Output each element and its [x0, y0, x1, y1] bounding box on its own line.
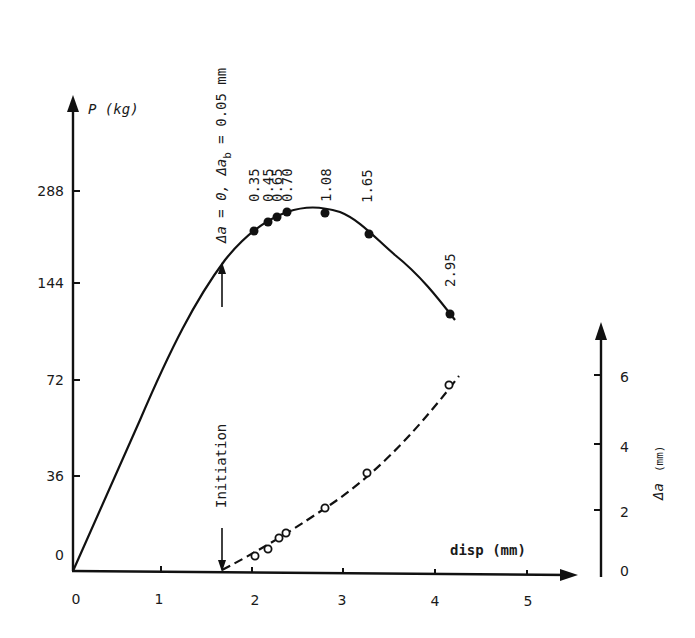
y-axis-label: P (kg) — [88, 101, 139, 117]
svg-text:1.65: 1.65 — [359, 169, 375, 203]
top-note: Δa = 0, Δab = 0.05 mm — [213, 68, 234, 244]
y2-tick-4: 4 — [620, 439, 629, 455]
crack-points — [251, 381, 452, 559]
chart: 288 144 72 36 0 P (kg) 0 1 2 3 4 5 disp … — [0, 0, 695, 638]
left-y-axis: 288 144 72 36 0 P (kg) — [37, 95, 138, 571]
load-curve — [73, 208, 455, 572]
y2-axis-label: Δa (mm) — [650, 446, 666, 502]
svg-text:Δa = 0, Δab = 0.05 mm: Δa = 0, Δab = 0.05 mm — [213, 68, 234, 244]
crack-extension-curve — [222, 376, 459, 570]
initiation-label: Initiation — [213, 424, 229, 508]
svg-text:1.08: 1.08 — [318, 168, 334, 202]
y2-tick-6: 6 — [620, 369, 629, 385]
x-axis-label: disp (mm) — [450, 542, 526, 558]
y-tick-72: 72 — [46, 372, 64, 388]
svg-text:(mm): (mm) — [653, 446, 666, 473]
x-tick-0: 0 — [72, 591, 81, 607]
y2-tick-0: 0 — [620, 563, 629, 579]
y-tick-36: 36 — [46, 468, 64, 484]
right-y-axis: 6 4 2 0 Δa (mm) — [594, 322, 666, 579]
y-tick-144: 144 — [37, 275, 64, 291]
y-tick-288: 288 — [37, 183, 64, 199]
y2-tick-2: 2 — [620, 504, 629, 520]
svg-text:2.95: 2.95 — [442, 253, 458, 287]
point-labels: 0.35 0.45 0.65 0.70 1.08 1.65 2.95 — [246, 168, 458, 287]
x-tick-2: 2 — [251, 592, 260, 608]
x-tick-5: 5 — [524, 593, 533, 609]
x-tick-1: 1 — [155, 591, 164, 607]
y-tick-0: 0 — [55, 547, 64, 563]
load-points — [250, 208, 455, 319]
x-tick-4: 4 — [431, 593, 440, 609]
x-tick-3: 3 — [338, 592, 347, 608]
svg-text:Δa: Δa — [650, 483, 666, 501]
svg-text:0.70: 0.70 — [279, 168, 295, 202]
x-axis: 0 1 2 3 4 5 disp (mm) — [72, 542, 578, 609]
svg-text:Initiation: Initiation — [213, 424, 229, 508]
